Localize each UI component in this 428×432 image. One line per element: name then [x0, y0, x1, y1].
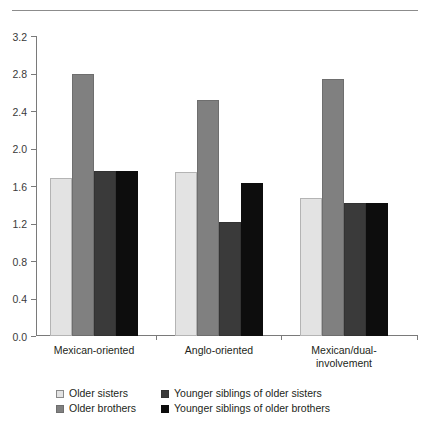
bar	[197, 100, 219, 336]
bar	[219, 222, 241, 336]
y-axis-tick-mark: 0.0	[31, 336, 36, 337]
legend-swatch-icon	[161, 390, 169, 398]
y-axis-tick-label: 0.4	[12, 294, 27, 305]
legend-swatch-icon	[56, 405, 64, 413]
bar	[94, 171, 116, 336]
bar	[116, 171, 138, 336]
y-axis-tick-mark: 2.0	[31, 149, 36, 150]
legend-label: Younger siblings of older brothers	[174, 403, 330, 414]
legend-label: Older sisters	[69, 388, 128, 399]
bar	[72, 74, 94, 336]
y-axis-tick-mark: 1.2	[31, 224, 36, 225]
y-axis-tick-label: 2.8	[12, 69, 27, 80]
category-label: Mexican-oriented	[24, 344, 164, 357]
y-axis-tick-label: 0.0	[12, 331, 27, 342]
y-axis-tick-mark: 1.6	[31, 186, 36, 187]
x-axis-separator-tick	[281, 336, 282, 340]
category-label: Anglo-oriented	[149, 344, 289, 357]
bar	[300, 198, 322, 336]
category-label: Mexican/dual- involvement	[274, 344, 414, 370]
bar	[175, 172, 197, 336]
y-axis-tick-label: 3.2	[12, 31, 27, 42]
y-axis-tick-label: 2.4	[12, 106, 27, 117]
y-axis-tick-label: 1.6	[12, 181, 27, 192]
y-axis-line	[36, 36, 37, 336]
bar	[241, 183, 263, 336]
legend-item-older-sisters: Older sisters	[56, 386, 128, 401]
legend-swatch-icon	[56, 390, 64, 398]
chart-legend: Older sisters Younger siblings of older …	[56, 386, 396, 416]
y-axis-tick-label: 0.8	[12, 256, 27, 267]
x-axis-separator-tick	[156, 336, 157, 340]
legend-item-older-brothers: Older brothers	[56, 401, 136, 416]
bar	[50, 178, 72, 336]
y-axis-tick-mark: 3.2	[31, 36, 36, 37]
bar	[366, 203, 388, 336]
legend-row: Older sisters Younger siblings of older …	[56, 386, 396, 401]
top-divider-rule	[12, 10, 418, 11]
legend-item-younger-siblings-of-older-sisters: Younger siblings of older sisters	[161, 386, 322, 401]
legend-item-younger-siblings-of-older-brothers: Younger siblings of older brothers	[161, 401, 330, 416]
legend-row: Older brothers Younger siblings of older…	[56, 401, 396, 416]
y-axis-tick-label: 2.0	[12, 144, 27, 155]
y-axis-tick-label: 1.2	[12, 219, 27, 230]
plot-area: 0.00.40.81.21.62.02.42.83.2	[36, 36, 418, 336]
bar	[322, 79, 344, 336]
bar	[344, 203, 366, 336]
y-axis-tick-mark: 2.4	[31, 111, 36, 112]
legend-label: Older brothers	[69, 403, 136, 414]
y-axis-tick-mark: 0.8	[31, 261, 36, 262]
x-axis-end-tick	[417, 336, 418, 340]
legend-label: Younger siblings of older sisters	[174, 388, 322, 399]
y-axis-tick-mark: 0.4	[31, 299, 36, 300]
y-axis-tick-mark: 2.8	[31, 74, 36, 75]
bar-chart-figure: 0.00.40.81.21.62.02.42.83.2 Mexican-orie…	[0, 0, 428, 432]
legend-swatch-icon	[161, 405, 169, 413]
